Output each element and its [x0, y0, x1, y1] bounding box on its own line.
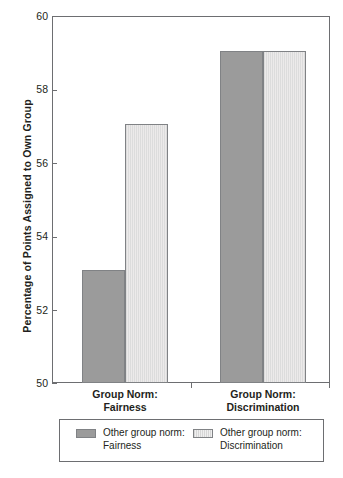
y-tick-label-60: 60	[22, 11, 48, 22]
y-tick-label-54: 54	[22, 231, 48, 242]
legend-entry-other-fairness: Other group norm: Fairness	[76, 427, 185, 452]
y-tick-mark-58	[52, 90, 57, 91]
page-bottom-margin	[0, 470, 343, 478]
x-category-label-discrimination-line2: Discrimination	[198, 401, 328, 414]
x-category-label-fairness-line1: Group Norm:	[92, 388, 157, 400]
y-tick-label-58: 58	[22, 84, 48, 95]
legend-entry-other-discrimination: Other group norm: Discrimination	[193, 427, 302, 452]
bar-discrimination-other-fairness	[220, 51, 263, 383]
legend-swatch-icon-series-light	[193, 429, 213, 438]
bar-discrimination-other-discrimination	[263, 51, 306, 383]
y-tick-mark-60	[52, 16, 57, 17]
y-tick-label-56: 56	[22, 158, 48, 169]
y-tick-mark-50	[52, 383, 57, 384]
bar-fairness-other-fairness	[82, 270, 125, 383]
legend: Other group norm: Fairness Other group n…	[59, 419, 324, 462]
y-tick-mark-52	[52, 310, 57, 311]
legend-swatch-icon-series-dark	[76, 429, 96, 438]
legend-label-other-fairness-line1: Other group norm:	[103, 427, 185, 438]
y-tick-mark-56	[52, 163, 57, 164]
y-tick-mark-54	[52, 237, 57, 238]
legend-label-other-fairness-line2: Fairness	[103, 440, 185, 453]
y-tick-label-52: 52	[22, 305, 48, 316]
bar-fairness-other-discrimination	[125, 124, 168, 383]
x-tick-mark-right	[329, 383, 330, 388]
x-category-label-fairness-line2: Fairness	[60, 401, 190, 414]
bar-chart-figure: Percentage of Points Assigned to Own Gro…	[0, 0, 343, 478]
x-category-label-fairness: Group Norm: Fairness	[60, 388, 190, 413]
legend-label-other-discrimination-line1: Other group norm:	[220, 427, 302, 438]
legend-label-other-discrimination-line2: Discrimination	[220, 440, 302, 453]
legend-label-other-discrimination: Other group norm: Discrimination	[220, 427, 302, 452]
x-category-label-discrimination-line1: Group Norm:	[230, 388, 295, 400]
x-tick-mark-center	[191, 383, 192, 388]
legend-label-other-fairness: Other group norm: Fairness	[103, 427, 185, 452]
y-tick-label-50: 50	[22, 378, 48, 389]
x-category-label-discrimination: Group Norm: Discrimination	[198, 388, 328, 413]
